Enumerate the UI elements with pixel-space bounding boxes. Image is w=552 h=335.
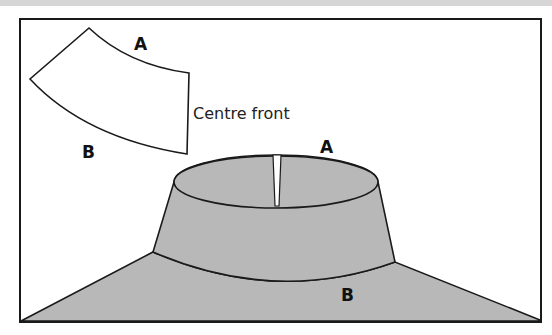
pattern-label-b: B: [82, 142, 95, 162]
centre-front-label: Centre front: [193, 104, 290, 123]
collar-label-a: A: [320, 137, 334, 157]
pattern-label-a: A: [134, 34, 148, 54]
diagram-canvas: A B Centre front A B: [0, 0, 552, 335]
neckline-label-b: B: [341, 285, 354, 305]
centre-front-opening: [273, 155, 281, 206]
